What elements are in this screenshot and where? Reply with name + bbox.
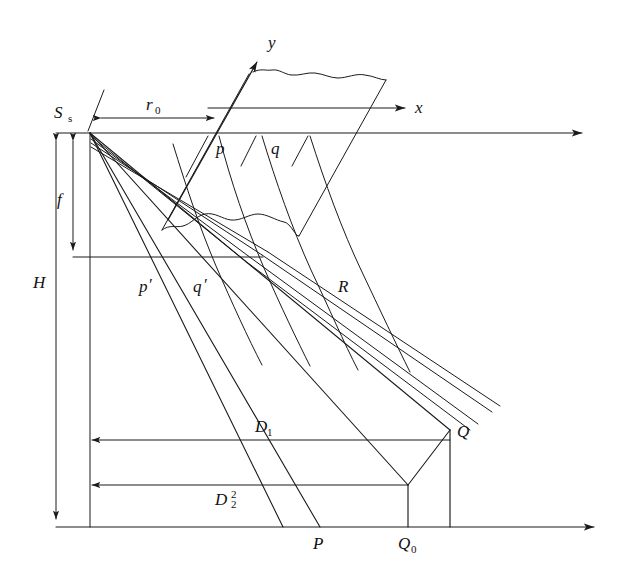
label-axis-x: x	[414, 98, 423, 117]
label-cell-p-projected: p ′	[138, 275, 152, 296]
label-point-Q: Q	[457, 422, 469, 441]
label-distance-one: D 1	[254, 417, 273, 438]
label-d1-subscript: 1	[267, 426, 273, 438]
label-source-subscript: s	[68, 112, 72, 124]
figure-root: S s y x r 0 f H p q p ′ q ′ R	[0, 0, 622, 565]
label-cell-p-proj-letter: p	[138, 277, 148, 296]
ray-corridor-extensions	[244, 252, 500, 430]
label-slant-range: R	[337, 277, 349, 296]
label-d1-letter: D	[254, 417, 268, 436]
label-distance-two: D 2 2	[214, 488, 237, 510]
label-axis-y: y	[266, 33, 276, 52]
label-r0: r 0	[146, 95, 161, 116]
label-cell-q-projected: q ′	[193, 275, 207, 296]
ray-to-P	[90, 133, 320, 527]
label-focal-distance: f	[57, 190, 64, 209]
label-r0-letter: r	[146, 95, 153, 114]
label-cell-q-proj-letter: q	[193, 277, 202, 296]
label-cell-p: p	[215, 139, 225, 158]
label-point-Q0-letter: Q	[398, 534, 410, 553]
label-height: H	[32, 273, 47, 292]
label-cell-p-proj-prime: ′	[148, 275, 152, 294]
label-d2-letter: D	[214, 490, 228, 509]
source-tick-mark	[88, 90, 104, 131]
label-source-letter: S	[54, 103, 63, 122]
label-source: S s	[54, 103, 72, 124]
label-cell-q: q	[271, 139, 280, 158]
label-point-Q0-subscript: 0	[411, 543, 417, 555]
q0-to-q-connector	[408, 430, 450, 485]
label-r0-subscript: 0	[155, 104, 161, 116]
radar-geometry-diagram: S s y x r 0 f H p q p ′ q ′ R	[0, 0, 622, 565]
label-point-Q0: Q 0	[398, 534, 417, 555]
ray-to-q0	[90, 133, 408, 485]
label-cell-q-proj-prime: ′	[203, 275, 207, 294]
ray-inner-fan	[90, 133, 283, 527]
label-d2-subscript: 2	[231, 498, 237, 510]
label-point-P: P	[312, 534, 323, 553]
